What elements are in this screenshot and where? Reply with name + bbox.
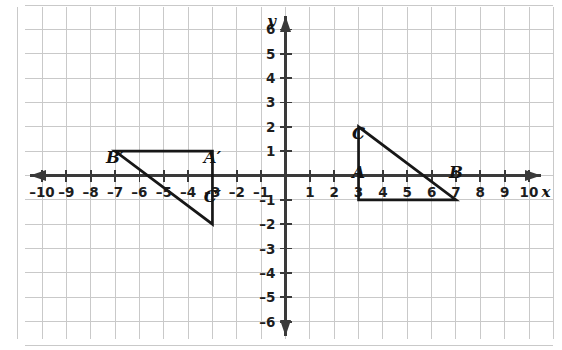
x-tick-label: –2 [229, 184, 245, 200]
coordinate-plane-svg: –10–9–8–7–6–5–4–3–2–112345678910654321–1… [0, 0, 562, 350]
vertex-label: B′ [105, 148, 125, 167]
y-tick-label: –4 [259, 265, 275, 281]
x-axis-name: x [541, 183, 552, 201]
y-tick-label: –5 [259, 289, 275, 305]
coordinate-plane-figure: –10–9–8–7–6–5–4–3–2–112345678910654321–1… [0, 0, 562, 350]
x-tick-label: 1 [305, 184, 314, 200]
x-tick-label: –6 [131, 184, 147, 200]
x-axis-arrow-left [30, 170, 46, 181]
y-tick-label: –6 [259, 314, 275, 330]
y-axis-name: y [266, 12, 277, 30]
y-tick-label: 3 [266, 94, 275, 110]
y-tick-label: 2 [266, 119, 275, 135]
x-tick-label: –9 [58, 184, 74, 200]
vertex-label: B [448, 163, 463, 182]
x-tick-label: 5 [403, 184, 412, 200]
y-tick-label: 4 [266, 70, 275, 86]
vertex-label: C [352, 124, 365, 143]
x-tick-label: –8 [83, 184, 99, 200]
x-tick-label: –7 [107, 184, 123, 200]
vertex-label: A′ [202, 148, 222, 167]
x-tick-label: 2 [329, 184, 338, 200]
y-tick-label: 1 [266, 143, 275, 159]
y-tick-label: –3 [259, 241, 275, 257]
x-tick-label: 6 [427, 184, 436, 200]
vertex-label: A [350, 163, 365, 182]
x-tick-label: 9 [500, 184, 509, 200]
y-tick-label: –2 [259, 216, 275, 232]
y-tick-label: 5 [266, 46, 275, 62]
x-tick-label: 8 [476, 184, 485, 200]
x-tick-label: 4 [378, 184, 387, 200]
x-tick-label: –10 [29, 184, 55, 200]
x-axis-arrow-right [525, 170, 541, 181]
x-tick-label: –4 [180, 184, 196, 200]
x-tick-label: 10 [520, 184, 539, 200]
axes [30, 16, 541, 336]
axis-names: xy [266, 12, 551, 201]
vertex-label: C′ [204, 187, 222, 206]
y-tick-label: –1 [259, 192, 275, 208]
